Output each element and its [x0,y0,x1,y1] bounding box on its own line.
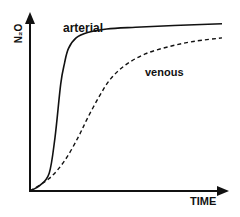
x-axis-arrow-icon [217,186,229,196]
venous-curve-label: venous [145,66,184,78]
y-axis-label: N₂O [13,21,24,47]
arterial-curve [30,24,222,191]
y-axis-arrow-icon [25,12,35,24]
venous-curve [30,38,222,191]
arterial-curve-label: arterial [63,21,103,35]
x-axis-label: TIME [190,195,216,207]
chart-canvas [0,0,240,217]
